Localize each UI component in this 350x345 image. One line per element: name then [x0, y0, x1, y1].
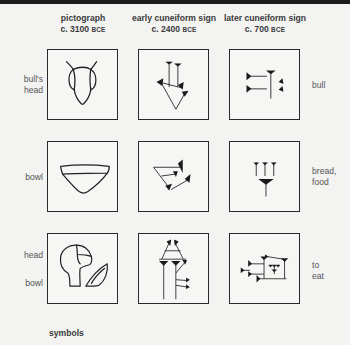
column-title: later cuneiform sign: [210, 13, 320, 24]
row-label-head: head: [3, 250, 43, 261]
symbols-caption: symbols: [49, 328, 84, 338]
row-label-to-eat: to eat: [312, 260, 324, 282]
to-eat-early-cuneiform-icon: [139, 234, 208, 303]
label-line: head: [3, 250, 43, 261]
bull-head-pictograph-icon: [48, 50, 117, 119]
label-line: bowl: [3, 278, 43, 289]
column-header-later-cuneiform: later cuneiform sign c. 700 BCE: [210, 13, 320, 35]
bread-later-cuneiform-icon: [230, 142, 299, 211]
label-line: food: [312, 177, 336, 188]
bull-later-cuneiform-icon: [230, 50, 299, 119]
later-cuneiform-to-eat: [229, 233, 300, 304]
label-line: bull's: [3, 74, 43, 85]
column-date: c. 700 BCE: [210, 24, 320, 36]
label-line: bowl: [3, 172, 43, 183]
early-cuneiform-bread: [138, 141, 209, 212]
row-label-bulls-head: bull's head: [3, 74, 43, 96]
label-line: bull: [312, 80, 325, 91]
label-line: head: [3, 85, 43, 96]
pictograph-to-eat: [47, 233, 118, 304]
row-label-bowl: bowl: [3, 172, 43, 183]
bull-early-cuneiform-icon: [139, 50, 208, 119]
head-and-bowl-pictograph-icon: [48, 234, 117, 303]
bread-early-cuneiform-icon: [139, 142, 208, 211]
to-eat-later-cuneiform-icon: [230, 234, 299, 303]
label-line: bread,: [312, 166, 336, 177]
pictograph-bowl: [47, 141, 118, 212]
top-edge-band: [0, 0, 350, 4]
bowl-pictograph-icon: [48, 142, 117, 211]
row-label-bread-food: bread, food: [312, 166, 336, 188]
row-label-bowl-2: bowl: [3, 278, 43, 289]
row-label-bull: bull: [312, 80, 325, 91]
early-cuneiform-to-eat: [138, 233, 209, 304]
early-cuneiform-bull: [138, 49, 209, 120]
label-line: eat: [312, 271, 324, 282]
label-line: to: [312, 260, 324, 271]
later-cuneiform-bull: [229, 49, 300, 120]
later-cuneiform-bread: [229, 141, 300, 212]
pictograph-bulls-head: [47, 49, 118, 120]
